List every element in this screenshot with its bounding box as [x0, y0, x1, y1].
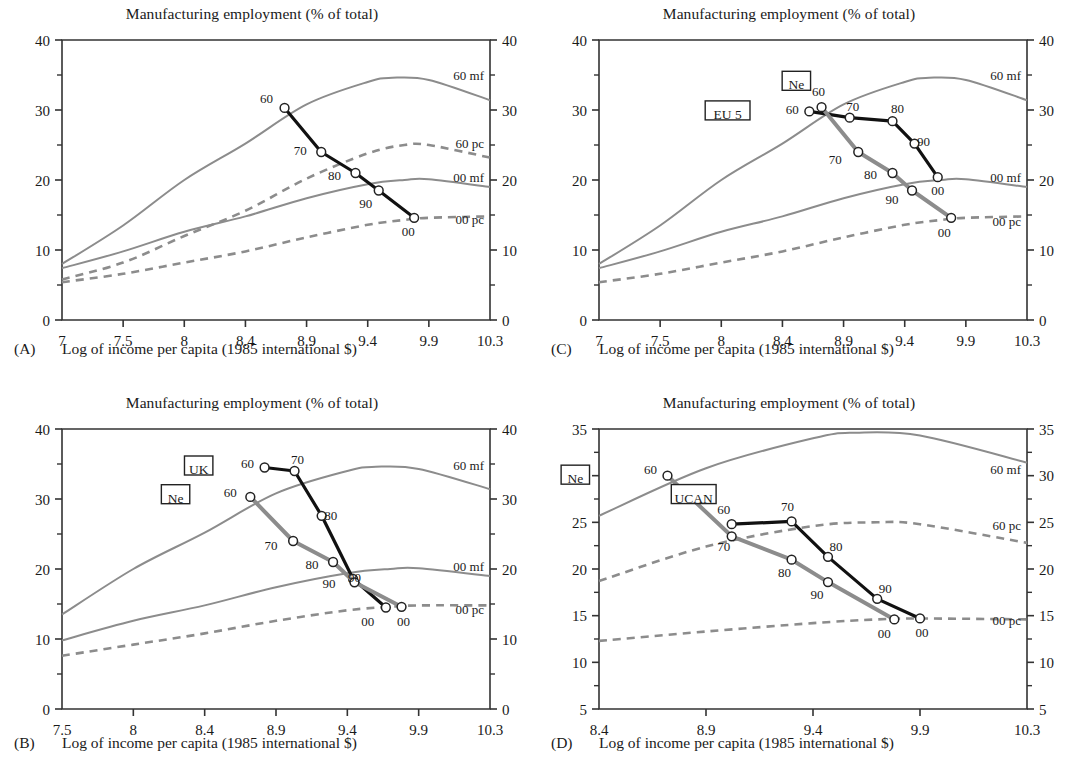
point-label: 80	[328, 168, 341, 183]
point-label: 60	[224, 485, 237, 500]
series-name-box-Ne: Ne	[561, 465, 589, 486]
panel-c-title: Manufacturing employment (% of total)	[559, 5, 1019, 23]
svg-text:Ne: Ne	[788, 77, 804, 92]
point-label: 80	[306, 557, 319, 572]
point-label: 80	[829, 539, 842, 554]
x-tick-label: 10.3	[1014, 333, 1040, 349]
point-label: 60	[644, 462, 657, 477]
point-label: 00	[361, 614, 374, 629]
reference-curve-00-pc	[62, 605, 490, 655]
y-tick-label: 30	[35, 103, 50, 119]
point-label: 90	[348, 570, 361, 585]
y-tick-label: 40	[572, 33, 587, 49]
data-point-marker	[289, 537, 298, 546]
x-tick-label: 9.9	[911, 722, 930, 738]
data-point-marker	[916, 614, 925, 623]
point-label: 70	[294, 143, 307, 158]
x-tick-label: 9.4	[358, 333, 377, 349]
data-point-marker	[888, 117, 897, 126]
panel-a-xlabel: Log of income per capita (1985 internati…	[62, 340, 357, 358]
point-label: 00	[931, 183, 944, 198]
data-point-marker	[663, 471, 672, 480]
data-point-marker	[329, 558, 338, 567]
data-point-marker	[817, 103, 826, 112]
y-tick-label-right: 30	[1039, 468, 1054, 484]
point-label: 80	[778, 565, 791, 580]
y-tick-label: 15	[572, 608, 587, 624]
y-tick-label: 0	[43, 313, 51, 329]
point-label: 80	[324, 508, 337, 523]
data-point-marker	[824, 578, 833, 587]
data-point-marker	[845, 113, 854, 122]
point-label: 00	[916, 625, 929, 640]
reference-curve-00-pc	[599, 619, 1027, 641]
point-label: 90	[323, 576, 336, 591]
data-point-marker	[381, 603, 390, 612]
x-tick-label: 9.4	[895, 333, 914, 349]
panel-d-title: Manufacturing employment (% of total)	[559, 394, 1019, 412]
panel-a-title: Manufacturing employment (% of total)	[22, 5, 482, 23]
series-Ne: 6070809000	[260, 91, 419, 239]
panel-c-xlabel: Log of income per capita (1985 internati…	[599, 340, 894, 358]
point-label: 60	[717, 502, 730, 517]
curve-label: 00 mf	[453, 170, 484, 185]
curve-label: 00 mf	[453, 559, 484, 574]
x-tick-label: 9.9	[409, 722, 428, 738]
y-tick-label: 40	[35, 422, 50, 438]
panel-c-letter: (C)	[551, 340, 572, 358]
y-tick-label: 0	[580, 313, 588, 329]
y-tick-label: 5	[580, 702, 588, 718]
y-tick-label: 25	[572, 515, 587, 531]
y-tick-label: 20	[35, 173, 50, 189]
curve-label: 00 pc	[992, 613, 1021, 628]
y-tick-label: 20	[572, 562, 587, 578]
curve-label: 60 mf	[453, 68, 484, 83]
y-tick-label-right: 20	[1039, 173, 1054, 189]
y-tick-label-right: 30	[502, 103, 517, 119]
data-point-marker	[933, 173, 942, 182]
y-tick-label-right: 5	[1039, 702, 1047, 718]
point-label: 90	[879, 581, 892, 596]
y-tick-label-right: 25	[1039, 515, 1054, 531]
data-point-marker	[890, 615, 899, 624]
panel-d: Manufacturing employment (% of total) 55…	[537, 389, 1073, 778]
data-point-marker	[787, 517, 796, 526]
data-point-marker	[787, 555, 796, 564]
data-point-marker	[888, 169, 897, 178]
reference-curve-60-pc	[62, 144, 490, 280]
data-point-marker	[908, 186, 917, 195]
panel-b-plot: 0010102020303040407.588.48.99.49.910.360…	[0, 411, 536, 771]
reference-curve-60-mf	[599, 77, 1027, 264]
curve-label: 60 pc	[455, 136, 484, 151]
y-tick-label-right: 0	[502, 313, 510, 329]
point-label: 00	[397, 614, 410, 629]
point-label: 70	[717, 539, 730, 554]
reference-curve-00-pc	[62, 216, 490, 282]
y-tick-label-right: 35	[1039, 422, 1054, 438]
y-tick-label-right: 15	[1039, 608, 1054, 624]
series-name-box-Ne: Ne	[782, 71, 810, 92]
svg-text:EU 5: EU 5	[714, 107, 742, 122]
y-tick-label: 10	[35, 632, 50, 648]
y-tick-label-right: 20	[502, 173, 517, 189]
svg-text:Ne: Ne	[168, 491, 184, 506]
y-tick-label: 30	[572, 103, 587, 119]
data-point-marker	[727, 520, 736, 529]
panel-d-xlabel: Log of income per capita (1985 internati…	[599, 734, 894, 752]
y-tick-label-right: 0	[1039, 313, 1047, 329]
y-tick-label: 40	[35, 33, 50, 49]
point-label: 00	[402, 224, 415, 239]
point-label: 80	[891, 101, 904, 116]
point-label: 70	[846, 99, 859, 114]
panel-b-letter: (B)	[14, 734, 35, 752]
point-label: 70	[829, 152, 842, 167]
series-name-box-UCAN: UCAN	[671, 485, 716, 506]
curve-label: 00 pc	[455, 212, 484, 227]
svg-text:Ne: Ne	[567, 471, 583, 486]
data-point-marker	[854, 148, 863, 157]
point-label: 70	[781, 499, 794, 514]
data-point-marker	[351, 169, 360, 178]
point-label: 60	[260, 91, 273, 106]
panel-b-xlabel: Log of income per capita (1985 internati…	[62, 734, 357, 752]
data-point-marker	[805, 107, 814, 116]
